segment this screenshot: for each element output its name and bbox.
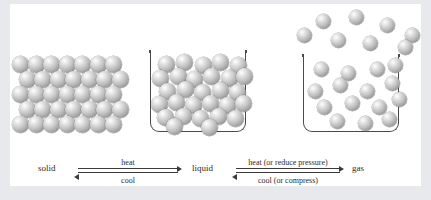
solid-particle	[74, 116, 91, 133]
liquid-container-left-lip	[149, 50, 151, 53]
gas-particle	[360, 84, 375, 99]
transition-arrow-shaft-forward-solid-liquid	[78, 168, 178, 169]
gas-particle	[317, 100, 332, 115]
transition-arrow-shaft-reverse-liquid-gas	[236, 172, 340, 173]
solid-particle	[43, 116, 60, 133]
liquid-particle	[227, 110, 244, 127]
transition-reverse-label-solid-liquid: cool	[78, 176, 178, 185]
state-label-liquid: liquid	[192, 163, 213, 173]
gas-particle	[330, 114, 345, 129]
liquid-particle	[236, 68, 253, 85]
escaped-gas-particle	[331, 33, 346, 48]
gas-particle	[388, 58, 403, 73]
figure-bottom-margin	[0, 186, 431, 200]
liquid-container-right-lip	[245, 50, 247, 53]
escaped-gas-particle	[316, 14, 331, 29]
liquid-particle	[166, 118, 183, 135]
arrowhead-right-icon	[339, 166, 344, 172]
transition-reverse-label-liquid-gas: cool (or compress)	[236, 176, 340, 185]
figure-left-margin	[0, 0, 10, 200]
transition-arrow-shaft-reverse-solid-liquid	[78, 172, 178, 173]
transition-arrows-solid-liquid: heat cool	[78, 168, 178, 174]
solid-particle	[28, 116, 45, 133]
state-label-solid: solid	[38, 163, 56, 173]
gas-particle	[358, 116, 373, 131]
solid-particle	[105, 116, 122, 133]
arrowhead-right-icon	[177, 166, 182, 172]
gas-particle	[382, 112, 397, 127]
transition-forward-label-liquid-gas: heat (or reduce pressure)	[236, 158, 340, 167]
solid-particle	[59, 116, 76, 133]
gas-container-left-lip	[302, 54, 304, 57]
escaped-gas-particle	[349, 10, 364, 25]
solid-particle	[12, 116, 29, 133]
gas-particle	[345, 96, 360, 111]
gas-container-right-lip	[398, 54, 400, 57]
figure-canvas: solid liquid gas heat cool heat (or redu…	[10, 4, 421, 186]
solid-particle	[90, 116, 107, 133]
gas-particle	[333, 78, 348, 93]
gas-particle	[385, 76, 400, 91]
gas-particle	[370, 62, 385, 77]
gas-particle	[392, 92, 407, 107]
liquid-particle	[201, 119, 218, 136]
transition-forward-label-solid-liquid: heat	[78, 158, 178, 167]
escaped-gas-particle	[297, 28, 312, 43]
diagram-stage: solid liquid gas heat cool heat (or redu…	[10, 4, 421, 186]
gas-particle	[314, 62, 329, 77]
escaped-gas-particle	[363, 36, 378, 51]
transition-arrow-shaft-forward-liquid-gas	[236, 168, 340, 169]
figure-right-margin	[421, 0, 431, 200]
transition-arrows-liquid-gas: heat (or reduce pressure) cool (or compr…	[236, 168, 340, 174]
escaped-gas-particle	[380, 18, 395, 33]
states-of-matter-figure: solid liquid gas heat cool heat (or redu…	[0, 0, 431, 200]
escaped-gas-particle	[398, 40, 413, 55]
state-label-gas: gas	[352, 163, 364, 173]
gas-particle	[308, 84, 323, 99]
